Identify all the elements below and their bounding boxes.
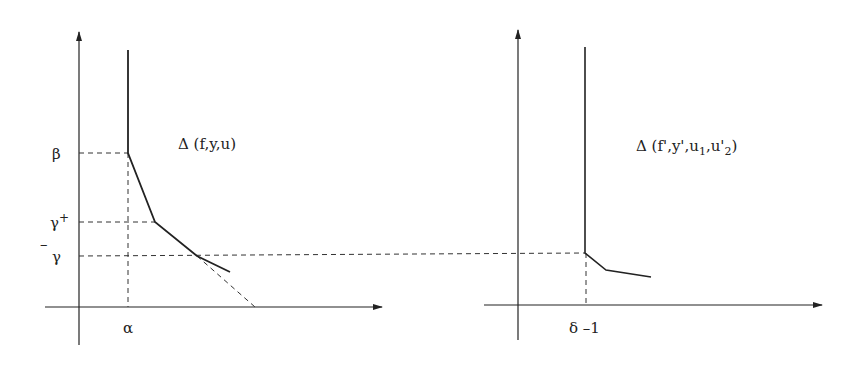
left-diagram-title: Δ (f,y,u) bbox=[178, 135, 236, 153]
gamma-plus-label: γ+ bbox=[50, 211, 69, 232]
right-diagram-title: Δ (f',y',u1,u'2) bbox=[636, 137, 737, 158]
gamma-bar-mark: – bbox=[40, 235, 48, 253]
right-diagram: δ –1 Δ (f',y',u1,u'2) bbox=[484, 30, 822, 340]
alpha-label: α bbox=[123, 319, 133, 337]
newton-polygon-figure: β γ+ – γ α Δ (f,y,u) δ –1 Δ (f',y',u1,u'… bbox=[0, 0, 856, 365]
beta-label: β bbox=[52, 145, 61, 163]
gamma-bar-label: γ bbox=[52, 248, 61, 266]
delta-minus-one-label: δ –1 bbox=[569, 319, 600, 337]
dashed-extension bbox=[197, 256, 255, 307]
left-newton-polygon bbox=[128, 50, 230, 272]
right-newton-polygon bbox=[585, 47, 651, 277]
gamma-bar-guide bbox=[79, 253, 585, 256]
left-diagram: β γ+ – γ α Δ (f,y,u) bbox=[40, 32, 585, 345]
